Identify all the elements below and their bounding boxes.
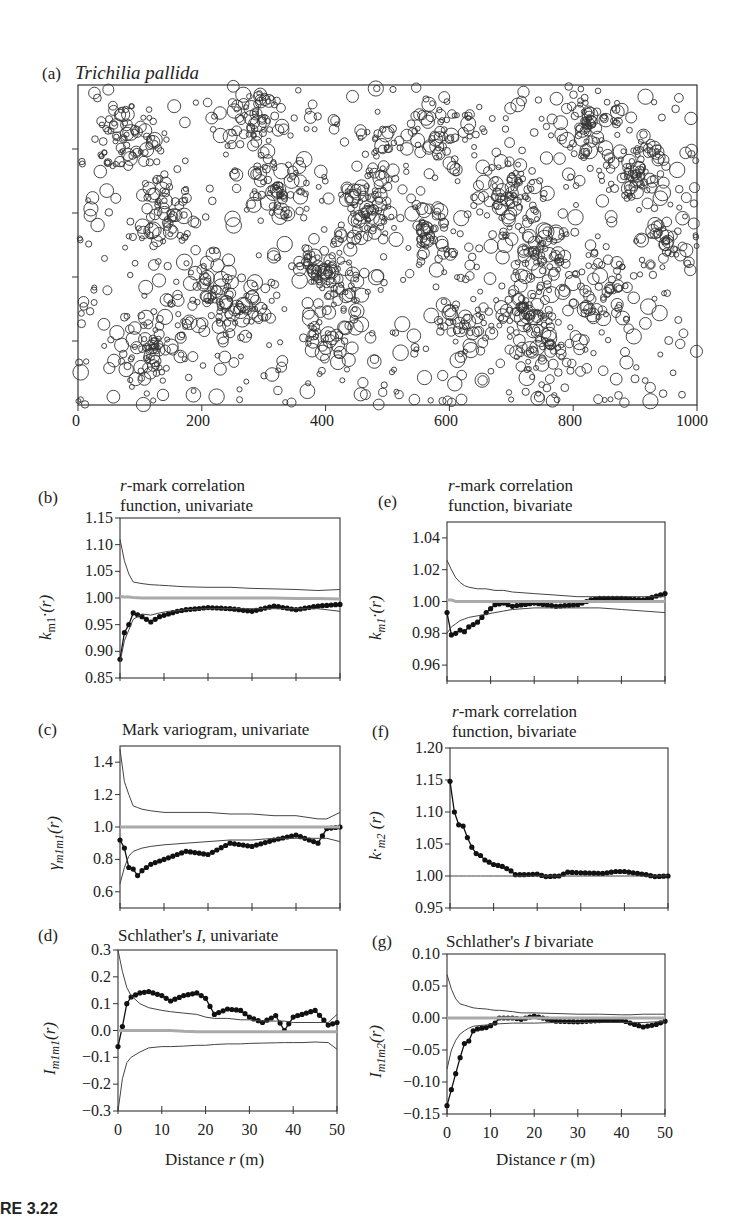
data-point	[188, 849, 193, 854]
x-tick: 40	[613, 1124, 629, 1141]
data-point	[164, 996, 169, 1001]
data-point	[444, 610, 449, 615]
y-tick: 1.10	[85, 536, 113, 553]
data-point	[225, 1006, 230, 1011]
x-tick: 50	[657, 1124, 673, 1141]
x-tick: 40	[285, 1121, 301, 1138]
data-point	[447, 779, 452, 784]
data-point	[453, 631, 458, 636]
data-point	[242, 1011, 247, 1016]
data-point	[449, 1087, 454, 1092]
y-tick: 0.95	[85, 616, 113, 633]
data-point	[210, 850, 215, 855]
upper-envelope-line	[118, 950, 337, 1023]
y-tick: 1.2	[93, 786, 113, 803]
chart-e: 1.041.021.000.980.96	[412, 522, 668, 684]
data-point	[192, 850, 197, 855]
data-point	[227, 841, 232, 846]
data-point	[662, 591, 667, 596]
data-point	[465, 835, 470, 840]
data-point	[622, 869, 627, 874]
data-point	[194, 990, 199, 995]
expectation-line	[120, 596, 340, 599]
y-tick: 0.90	[85, 642, 113, 659]
y-tick: 1.02	[412, 561, 440, 578]
data-point	[267, 839, 272, 844]
data-point	[495, 863, 500, 868]
data-point	[219, 845, 224, 850]
data-point	[641, 1024, 646, 1029]
data-point	[236, 607, 241, 612]
y-tick: 1.15	[415, 771, 443, 788]
data-point	[313, 1008, 318, 1013]
observed-line	[118, 992, 337, 1047]
data-point	[308, 1009, 313, 1014]
data-point	[475, 620, 480, 625]
chart-b: 1.151.101.051.000.950.900.85	[85, 509, 343, 686]
lower-envelope-line	[118, 1042, 337, 1111]
data-point	[245, 843, 250, 848]
data-point	[500, 864, 505, 869]
data-point	[229, 1007, 234, 1012]
y-tick: −0.1	[82, 1048, 111, 1065]
data-point	[600, 871, 605, 876]
observed-line	[120, 604, 340, 659]
y-tick: 1.05	[85, 562, 113, 579]
data-point	[510, 604, 515, 609]
data-point	[232, 607, 237, 612]
y-tick: 1.00	[412, 593, 440, 610]
y-tick: 0.00	[412, 1009, 440, 1026]
upper-envelope-line	[120, 539, 340, 590]
data-point	[488, 606, 493, 611]
data-point	[285, 834, 290, 839]
chart-g: 0.100.050.00−0.05−0.10−0.1501020304050	[403, 945, 673, 1141]
y-tick: 0.6	[93, 883, 113, 900]
x-tick: 20	[198, 1121, 214, 1138]
y-tick: 1.00	[85, 589, 113, 606]
y-tick: 1.0	[93, 818, 113, 835]
y-tick: 0.0	[91, 1022, 111, 1039]
y-tick: −0.05	[403, 1041, 440, 1058]
data-point	[304, 1011, 309, 1016]
data-point	[628, 1021, 633, 1026]
data-point	[293, 607, 298, 612]
data-point	[462, 629, 467, 634]
data-point	[326, 1023, 331, 1028]
data-point	[280, 605, 285, 610]
data-point	[157, 614, 162, 619]
data-point	[320, 833, 325, 838]
data-point	[645, 1024, 650, 1029]
data-point	[122, 630, 127, 635]
data-point	[263, 840, 268, 845]
data-point	[478, 853, 483, 858]
data-point	[317, 1013, 322, 1018]
data-point	[631, 870, 636, 875]
y-tick: 1.15	[85, 509, 113, 526]
data-point	[139, 868, 144, 873]
data-point	[492, 1021, 497, 1026]
y-tick: 0.95	[415, 899, 443, 916]
data-point	[238, 1008, 243, 1013]
data-point	[324, 603, 329, 608]
y-tick: 0.1	[91, 995, 111, 1012]
data-point	[452, 809, 457, 814]
data-point	[205, 852, 210, 857]
data-point	[201, 851, 206, 856]
data-point	[166, 611, 171, 616]
observed-line	[120, 827, 340, 876]
data-point	[181, 993, 186, 998]
y-tick: 0.3	[91, 941, 111, 958]
y-tick: 0.10	[412, 945, 440, 962]
data-point	[148, 619, 153, 624]
data-point	[444, 1103, 449, 1108]
data-point	[161, 613, 166, 618]
data-point	[144, 617, 149, 622]
data-point	[466, 624, 471, 629]
data-point	[291, 1015, 296, 1020]
chart-f: 1.201.151.101.051.000.95	[415, 739, 671, 916]
data-point	[199, 993, 204, 998]
data-point	[461, 824, 466, 829]
data-point	[203, 996, 208, 1001]
data-point	[469, 845, 474, 850]
y-tick: 0.8	[93, 850, 113, 867]
